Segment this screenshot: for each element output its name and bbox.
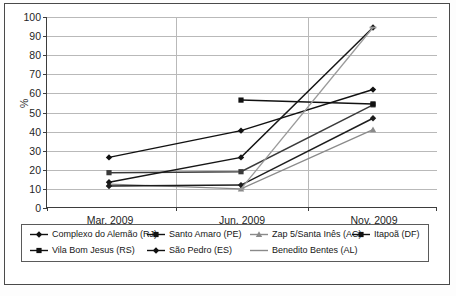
y-axis-tick-label: 20 — [0, 165, 41, 175]
y-axis-tick-label: 90 — [0, 31, 41, 41]
data-point-marker — [370, 115, 376, 121]
legend-marker-square-bold-icon — [30, 246, 48, 255]
y-axis-tick-label: 30 — [0, 146, 41, 156]
legend-marker-diamond-icon — [147, 246, 165, 255]
y-axis-tick-label: 80 — [0, 50, 41, 60]
y-axis-tick-label: 40 — [0, 127, 41, 137]
y-axis-tick-label: 50 — [0, 108, 41, 118]
data-point-marker — [238, 169, 243, 174]
series-3 — [238, 97, 375, 106]
data-point-marker — [238, 127, 244, 133]
legend-item[interactable]: Benedito Bentes (AL) — [250, 246, 358, 255]
y-axis-tick-label: 10 — [0, 184, 41, 194]
legend-item[interactable]: Complexo do Alemão (RJ) — [30, 230, 157, 239]
series-1 — [106, 102, 375, 175]
legend-marker-triangle-icon — [250, 230, 268, 239]
x-axis-tick-mark — [436, 207, 437, 211]
legend-item-label: Complexo do Alemão (RJ) — [52, 230, 157, 239]
chart-legend: Complexo do Alemão (RJ)Santo Amaro (PE)Z… — [21, 224, 429, 262]
data-point-marker — [106, 154, 112, 160]
data-point-marker — [370, 27, 377, 29]
legend-item-label: Santo Amaro (PE) — [169, 230, 242, 239]
legend-item-label: Itapoã (DF) — [374, 230, 420, 239]
series-line — [241, 28, 373, 189]
legend-item[interactable]: São Pedro (ES) — [147, 246, 232, 255]
legend-marker-dash-icon — [250, 246, 268, 255]
legend-item[interactable]: Itapoã (DF) — [352, 230, 420, 239]
chart-screenshot: % 0102030405060708090100Mar. 2009Jun. 20… — [0, 0, 456, 296]
data-point-marker — [370, 86, 376, 92]
data-point-marker — [370, 101, 375, 106]
legend-item-label: Vila Bom Jesus (RS) — [52, 246, 135, 255]
y-axis-tick-label: 100 — [0, 12, 41, 22]
series-4 — [106, 24, 376, 185]
legend-item-label: Zap 5/Santa Inês (AC) — [272, 230, 362, 239]
figure-caption — [4, 288, 304, 296]
series-layer — [46, 17, 436, 208]
series-5 — [106, 115, 376, 189]
data-point-marker — [106, 170, 111, 175]
legend-row-1: Complexo do Alemão (RJ)Santo Amaro (PE)Z… — [22, 230, 430, 245]
series-6 — [238, 27, 377, 190]
series-line — [241, 100, 373, 104]
y-axis-tick-label: 60 — [0, 88, 41, 98]
y-axis-tick-label: 0 — [0, 203, 41, 213]
legend-marker-square-icon — [147, 230, 165, 239]
legend-item[interactable]: Zap 5/Santa Inês (AC) — [250, 230, 362, 239]
legend-item[interactable]: Vila Bom Jesus (RS) — [30, 246, 135, 255]
data-point-marker — [370, 126, 376, 132]
y-axis-tick-label: 70 — [0, 69, 41, 79]
legend-item-label: São Pedro (ES) — [169, 246, 232, 255]
legend-marker-square-bold-icon — [352, 230, 370, 239]
legend-row-2: Vila Bom Jesus (RS)São Pedro (ES)Benedit… — [22, 246, 430, 261]
legend-item-label: Benedito Bentes (AL) — [272, 246, 358, 255]
data-point-marker — [238, 188, 245, 190]
legend-marker-diamond-icon — [30, 230, 48, 239]
legend-item[interactable]: Santo Amaro (PE) — [147, 230, 242, 239]
data-point-marker — [238, 97, 243, 102]
